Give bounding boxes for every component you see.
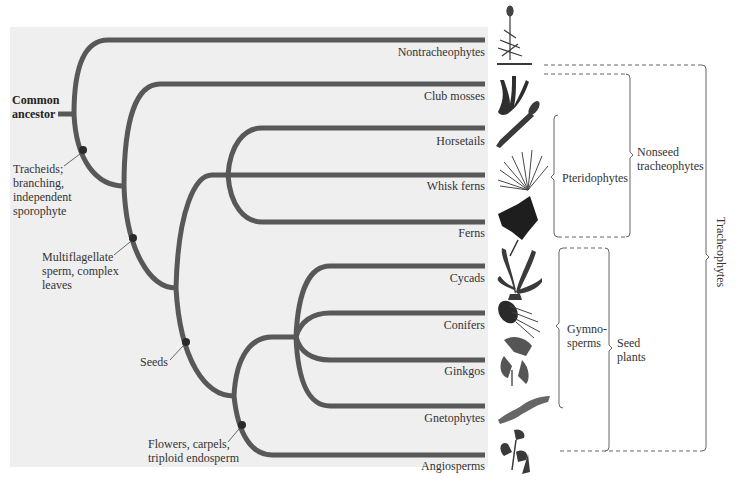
group-brackets <box>544 65 709 451</box>
trait-node-seeds <box>182 338 190 346</box>
whisk-fern-icon <box>498 150 548 190</box>
root-label: Common ancestor <box>12 93 59 121</box>
trait-pointers <box>64 154 239 442</box>
trait-label-tracheids: Tracheids; branching, independent sporop… <box>13 162 72 218</box>
taxon-label-angiosperms: Angiosperms <box>345 459 485 473</box>
conifer-icon <box>494 297 540 338</box>
bracket-nonseed <box>626 74 633 237</box>
group-label-tracheophytes: Tracheophytes <box>713 217 728 287</box>
taxon-label-gnetophytes: Gnetophytes <box>345 411 485 425</box>
trait-node-tracheids <box>79 146 87 154</box>
cycad-icon <box>498 248 542 300</box>
moss-icon <box>497 6 532 64</box>
club-moss-icon <box>498 76 529 115</box>
taxon-label-horsetails: Horsetails <box>345 134 485 148</box>
taxon-label-cycads: Cycads <box>345 271 485 285</box>
plant-icons <box>494 6 550 474</box>
trait-node-multiflagellate <box>129 234 137 242</box>
ginkgo-icon <box>501 337 532 386</box>
trait-label-flowers: Flowers, carpels, triploid endosperm <box>148 437 239 465</box>
angiosperm-icon <box>501 429 530 474</box>
group-label-pteridophytes: Pteridophytes <box>562 171 628 185</box>
taxon-label-ginkgos: Ginkgos <box>345 364 485 378</box>
trait-label-multiflagellate: Multiflagellate sperm, complex leaves <box>42 250 119 292</box>
taxon-label-whisk-ferns: Whisk ferns <box>345 179 485 193</box>
bracket-tracheophytes <box>702 65 709 451</box>
taxon-label-ferns: Ferns <box>345 226 485 240</box>
bracket-pteridophytes <box>551 115 558 237</box>
bracket-gymnosperms <box>556 248 563 408</box>
taxon-label-nontracheophytes: Nontracheophytes <box>345 45 485 59</box>
taxon-label-club-mosses: Club mosses <box>345 89 485 103</box>
trait-node-flowers <box>238 421 246 429</box>
trait-label-seeds: Seeds <box>140 355 168 369</box>
branch-ginkgos <box>296 337 485 360</box>
gnetophyte-icon <box>498 396 550 424</box>
fern-icon <box>498 196 538 256</box>
taxon-label-conifers: Conifers <box>345 318 485 332</box>
group-label-gymnosperms: Gymno- sperms <box>567 322 607 350</box>
group-label-nonseed: Nonseed tracheophytes <box>637 145 704 173</box>
group-label-seed-plants: Seed plants <box>617 336 646 364</box>
